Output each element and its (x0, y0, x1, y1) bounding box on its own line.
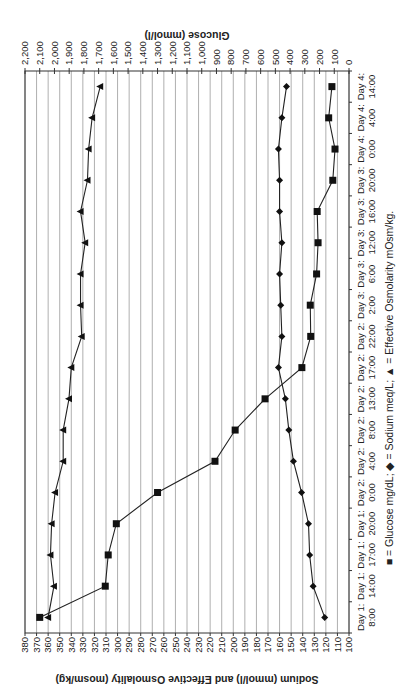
square-marker (315, 239, 322, 246)
tick-label: 240 (181, 637, 192, 653)
diamond-marker (305, 520, 312, 527)
tick-label: 320 (89, 637, 100, 653)
tick-label: 280 (135, 637, 146, 653)
tick-label: 150 (285, 637, 296, 653)
time-label: Day 3: (355, 260, 366, 287)
square-marker (314, 208, 321, 215)
diamond-marker (276, 208, 283, 215)
square-marker (298, 364, 305, 371)
time-label: Day 1: (355, 604, 366, 631)
tick-label: 250 (170, 637, 181, 653)
sodium-osmolality-axis: 3803703603503403303203103002902802702602… (19, 633, 354, 653)
tick-label: 1,700 (93, 41, 104, 65)
time-label: 16:00 (366, 200, 377, 224)
time-label: 4:00 (366, 109, 377, 128)
tick-label: 160 (274, 637, 285, 653)
time-label: 6:00 (366, 265, 377, 284)
tick-label: 210 (216, 637, 227, 653)
tick-label: 360 (42, 637, 53, 653)
time-label: Day 2: (355, 323, 366, 350)
tick-label: 270 (147, 637, 158, 653)
diamond-marker (306, 551, 313, 558)
tick-label: 340 (66, 637, 77, 653)
square-marker (105, 551, 112, 558)
tick-label: 260 (158, 637, 169, 653)
time-label: 20:00 (366, 168, 377, 192)
tick-label: 100 (343, 637, 354, 653)
diamond-marker (282, 395, 289, 402)
tick-label: 110 (332, 637, 343, 652)
time-label: 13:00 (366, 387, 377, 411)
tick-label: 300 (112, 637, 123, 653)
tick-label: 500 (270, 49, 281, 65)
sodium-axis-title: Sodium (mmol/l) and Effective Osmolality… (55, 674, 318, 686)
time-label: 0:00 (366, 483, 377, 502)
tick-label: 400 (284, 49, 295, 65)
tick-label: 1,500 (122, 41, 133, 65)
tick-label: 1,000 (196, 41, 207, 65)
diamond-marker (298, 489, 305, 496)
diamond-marker (321, 614, 328, 621)
line-chart: 3803703603503403303203103002902802702602… (0, 0, 404, 700)
tick-label: 350 (54, 637, 65, 653)
tick-label: 200 (314, 49, 325, 65)
legend: ■ = Glucose mg/dL; ◆ = Sodium meq/L; ▲ =… (383, 211, 395, 566)
series-line (278, 87, 324, 618)
tick-label: 370 (31, 637, 42, 653)
time-label: 4:00 (366, 452, 377, 471)
time-label: Day 3: (355, 229, 366, 256)
tick-label: 1,200 (167, 41, 178, 65)
time-label: 12:00 (366, 231, 377, 255)
tick-label: 1,100 (181, 41, 192, 65)
glucose-axis-title: Glucose (mmol/l) (144, 30, 229, 42)
tick-label: 100 (329, 49, 340, 65)
tick-label: 0 (343, 60, 354, 65)
square-marker (211, 458, 218, 465)
time-axis: Day 1:8:00Day 1:14:00Day 1:17:00Day 1:20… (349, 71, 377, 633)
time-label: Day 1: (355, 541, 366, 568)
diamond-marker (275, 146, 282, 153)
time-label: Day 2: (355, 479, 366, 506)
square-marker (262, 395, 269, 402)
tick-label: 120 (320, 637, 331, 653)
tick-label: 310 (100, 637, 111, 653)
tick-label: 1,600 (108, 41, 119, 65)
time-label: Day 2: (355, 448, 366, 475)
time-label: 22:00 (366, 324, 377, 348)
tick-label: 170 (262, 637, 273, 653)
tick-label: 2,000 (49, 41, 60, 65)
diamond-marker (276, 177, 283, 184)
tick-label: 230 (193, 637, 204, 653)
triangle-marker (46, 551, 53, 558)
tick-label: 330 (77, 637, 88, 653)
tick-label: 300 (299, 49, 310, 65)
square-marker (113, 520, 120, 527)
square-marker (307, 302, 314, 309)
time-label: Day 3: (355, 167, 366, 194)
series-line (48, 87, 100, 618)
tick-label: 290 (123, 637, 134, 653)
triangle-marker (77, 208, 84, 215)
time-label: 14:00 (366, 574, 377, 598)
square-marker (307, 333, 314, 340)
tick-label: 1,400 (137, 41, 148, 65)
diamond-marker (283, 83, 290, 90)
time-label: 14:00 (366, 75, 377, 99)
tick-label: 130 (309, 637, 320, 653)
time-label: 8:00 (366, 421, 377, 440)
diamond-marker (310, 583, 317, 590)
time-label: 2:00 (366, 296, 377, 315)
square-marker (154, 489, 161, 496)
glucose-axis: 2,2002,1002,0001,9001,8001,7001,6001,500… (19, 41, 354, 74)
time-label: Day 3: (355, 291, 366, 318)
time-label: 8:00 (366, 608, 377, 627)
square-marker (313, 270, 320, 277)
tick-label: 800 (225, 49, 236, 65)
time-label: Day 2: (355, 416, 366, 443)
tick-label: 1,900 (63, 41, 74, 65)
tick-label: 180 (251, 637, 262, 653)
time-label: Day 2: (355, 354, 366, 381)
tick-label: 2,100 (34, 41, 45, 65)
tick-label: 700 (240, 49, 251, 65)
diamond-marker (276, 270, 283, 277)
